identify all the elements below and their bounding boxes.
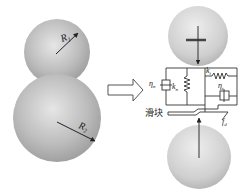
svg-text:kt: kt [206,66,212,76]
contact-model-diagram: R1 R2 ηn kn kt ηt 滑块 fd [0,0,245,195]
svg-text:fd: fd [222,117,227,127]
svg-text:kn: kn [172,82,179,92]
hollow-right-arrow [108,79,143,101]
svg-text:ηt: ηt [218,81,224,91]
svg-text:ηn: ηn [149,79,156,89]
spring-dashpot-network [160,68,237,120]
bonded-spheres [13,19,101,162]
svg-text:滑块: 滑块 [145,107,163,118]
bottom-sphere [13,74,101,162]
